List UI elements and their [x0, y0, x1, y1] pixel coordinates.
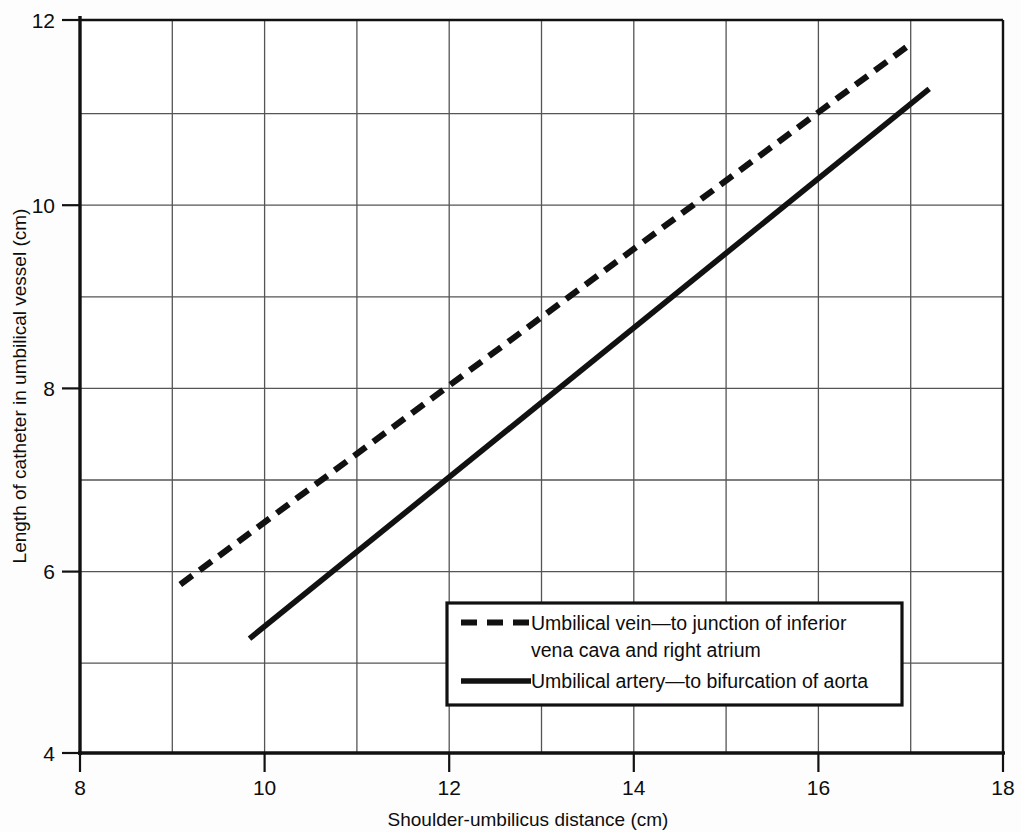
y-tick-label-12: 12 [32, 9, 55, 32]
y-axis-ticks [62, 20, 80, 753]
x-tick-label-12: 12 [438, 776, 461, 799]
y-axis-title: Length of catheter in umbilical vessel (… [9, 209, 30, 564]
chart-legend: Umbilical vein—to junction of inferior v… [447, 603, 902, 705]
chart-page: 12 10 8 6 4 8 10 12 14 16 18 Shoulder-um… [0, 0, 1021, 832]
legend-entry-1-line-2: vena cava and right atrium [531, 639, 761, 661]
x-tick-label-18: 18 [991, 776, 1014, 799]
x-tick-label-8: 8 [74, 776, 86, 799]
x-tick-label-10: 10 [253, 776, 276, 799]
x-axis-title: Shoulder-umbilicus distance (cm) [388, 809, 669, 830]
x-axis-ticks [80, 753, 1003, 772]
x-tick-label-16: 16 [807, 776, 830, 799]
x-tick-label-14: 14 [622, 776, 646, 799]
y-tick-label-8: 8 [43, 377, 55, 400]
legend-entry-1-line-1: Umbilical vein—to junction of inferior [531, 612, 847, 634]
y-tick-label-10: 10 [32, 194, 55, 217]
legend-entry-2-line-1: Umbilical artery—to bifurcation of aorta [531, 670, 868, 692]
y-tick-label-4: 4 [43, 742, 55, 765]
y-tick-label-6: 6 [43, 560, 55, 583]
line-chart: 12 10 8 6 4 8 10 12 14 16 18 Shoulder-um… [0, 0, 1021, 832]
